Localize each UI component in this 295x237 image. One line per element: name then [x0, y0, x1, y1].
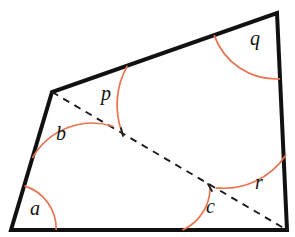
angle-label-p: p: [101, 83, 111, 103]
angle-label-q: q: [250, 28, 260, 48]
angle-label-r: r: [255, 172, 263, 192]
geometry-figure: a b p q c r: [0, 0, 295, 237]
angle-label-c: c: [206, 196, 215, 216]
angle-label-a: a: [30, 198, 40, 218]
angle-label-b: b: [56, 123, 66, 143]
quadrilateral-outline: [11, 13, 287, 230]
